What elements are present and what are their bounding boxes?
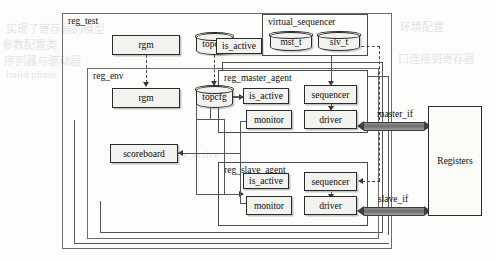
connector-slave-monitor-up [240, 153, 241, 203]
node-vseq-mst-t[interactable]: mst_t [270, 32, 312, 51]
background-artifact-text: build phase [6, 68, 56, 80]
node-master-sequencer[interactable]: sequencer [304, 85, 357, 104]
bus-cap-left-master-if [357, 121, 364, 131]
routing-line-bottom-left-env [100, 201, 101, 232]
diagram-canvas: 实现了寄存器的模型 参数配置类 序列器与驱动器 build phase 环境配置… [0, 0, 497, 262]
routing-line-bottom-env [100, 232, 383, 233]
connector-test-topcfg-to-env-topcfg [214, 55, 215, 82]
node-slave-sequencer[interactable]: sequencer [304, 172, 357, 191]
node-test-rgm[interactable]: rgm [112, 35, 180, 55]
node-scoreboard[interactable]: scoreboard [110, 144, 178, 163]
node-master-is-active[interactable]: is_active [243, 88, 289, 104]
routing-line-top-drop [222, 62, 223, 70]
connector-to-slave-is-active [196, 194, 243, 195]
connector-slv-to-slave-seq [362, 181, 380, 182]
connector-scoreboard-feed [178, 153, 240, 154]
connector-env-topcfg-right-drop [224, 119, 225, 194]
bus-slave-if [364, 207, 424, 216]
routing-line-bottom-test [74, 243, 389, 244]
arrowhead-down [143, 82, 149, 87]
node-label: is_active [249, 176, 283, 186]
node-label: slv_t [330, 37, 348, 47]
node-master-driver[interactable]: driver [304, 110, 357, 129]
container-label-virtual-sequencer: virtual_sequencer [268, 17, 336, 28]
node-label: monitor [254, 115, 284, 125]
routing-line-top [222, 62, 383, 63]
node-label: rgm [138, 93, 153, 103]
node-label: rgm [138, 40, 153, 50]
connector-env-topcfg-left-drop [196, 119, 197, 194]
connector-test-rgm-to-env-rgm [146, 55, 147, 83]
node-label: driver [319, 115, 342, 125]
background-artifact-text: 环境配置 [400, 18, 444, 34]
container-label-reg-test: reg_test [68, 16, 98, 27]
node-label: is_active [249, 91, 283, 101]
background-artifact-text: 参数配置类 [2, 36, 57, 52]
node-label: is_active [222, 41, 256, 51]
routing-line-bottom-left-test [74, 120, 75, 243]
bus-master-if [364, 122, 424, 131]
node-env-topcfg[interactable]: topcfg [196, 86, 233, 108]
background-artifact-text: 口连接到寄存器 [398, 50, 475, 66]
connector-env-topcfg-down [210, 108, 211, 119]
node-label: scoreboard [123, 149, 165, 159]
node-vseq-slv-t[interactable]: slv_t [318, 32, 360, 51]
node-registers[interactable]: Registers [428, 106, 482, 216]
bus-cap-left-slave-if [357, 206, 364, 216]
label-master-if: master_if [377, 109, 413, 119]
node-master-monitor[interactable]: monitor [246, 110, 292, 129]
node-label: driver [319, 201, 342, 211]
node-test-is-active[interactable]: is_active [216, 38, 262, 54]
connector-master-monitor-down [240, 121, 241, 153]
node-env-rgm[interactable]: rgm [112, 88, 180, 108]
node-slave-is-active[interactable]: is_active [243, 173, 289, 189]
node-label: sequencer [312, 177, 350, 187]
container-label-reg-master-agent: reg_master_agent [224, 73, 292, 84]
node-label: sequencer [312, 90, 350, 100]
node-slave-driver[interactable]: driver [304, 196, 357, 215]
container-label-reg-env: reg_env [93, 71, 124, 82]
arrowhead-left [358, 178, 363, 184]
arrowhead-left [178, 150, 183, 156]
node-label: mst_t [280, 37, 301, 47]
routing-line-master-out [368, 76, 389, 77]
node-label: Registers [437, 156, 472, 166]
node-label: monitor [254, 201, 284, 211]
label-slave-if: slave_if [378, 194, 408, 204]
connector-mst-to-master-sequencer [331, 56, 332, 84]
node-label: topcfg [202, 92, 226, 102]
node-slave-monitor[interactable]: monitor [246, 196, 292, 215]
connector-env-topcfg-bus [196, 119, 224, 120]
